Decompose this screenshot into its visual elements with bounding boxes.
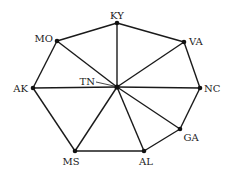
node-tn	[114, 84, 119, 89]
label-va: VA	[188, 36, 204, 47]
label-ms: MS	[62, 156, 79, 167]
edge-ms-ak	[33, 88, 75, 151]
node-mo	[55, 39, 60, 44]
label-ga: GA	[183, 132, 199, 143]
label-ak: AK	[12, 83, 28, 94]
node-al	[142, 149, 147, 154]
node-va	[182, 40, 187, 45]
edge-nc-ga	[180, 88, 200, 129]
edge-tn-nc	[117, 87, 200, 88]
label-nc: NC	[204, 83, 221, 94]
edge-ak-mo	[33, 41, 57, 88]
node-nc	[198, 86, 203, 91]
edge-va-nc	[184, 42, 200, 88]
label-mo: MO	[35, 33, 53, 44]
edge-mo-ky	[57, 23, 117, 41]
edge-tn-va	[117, 42, 184, 87]
edge-tn-ms	[75, 87, 117, 151]
label-ky: KY	[110, 10, 124, 21]
node-ak	[31, 86, 36, 91]
edge-tn-ak	[33, 87, 117, 88]
label-al: AL	[138, 156, 153, 167]
state-adjacency-diagram: KYVANCGAALMSAKMOTN	[0, 0, 229, 174]
edge-ky-va	[117, 23, 184, 42]
node-ky	[115, 21, 120, 26]
label-tn: TN	[80, 76, 96, 87]
node-ms	[73, 149, 78, 154]
node-ga	[178, 127, 183, 132]
edge-ga-al	[144, 129, 180, 151]
